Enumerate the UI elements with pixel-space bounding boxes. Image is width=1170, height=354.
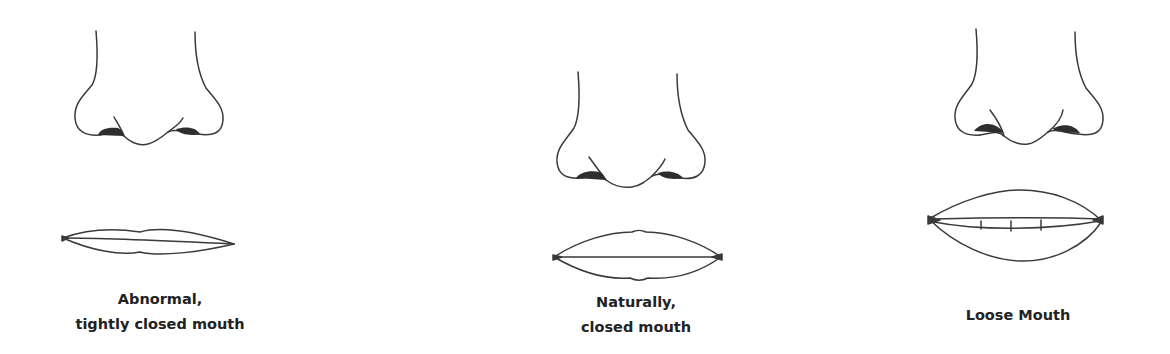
caption-natural-line-1: Naturally, [516, 290, 756, 315]
lips-loose-open-icon [928, 190, 1103, 261]
caption-loose-line-1: Loose Mouth [898, 303, 1138, 328]
caption-abnormal-line-1: Abnormal, [40, 287, 280, 312]
panel-natural-drawing [553, 72, 722, 280]
panel-abnormal-drawing [62, 31, 234, 254]
nose-icon [557, 72, 705, 187]
caption-abnormal-line-2: tightly closed mouth [40, 312, 280, 337]
nose-icon [75, 31, 223, 145]
nose-icon [955, 29, 1103, 144]
caption-abnormal: Abnormal, tightly closed mouth [40, 287, 280, 337]
caption-loose: Loose Mouth [898, 303, 1138, 328]
caption-natural-line-2: closed mouth [516, 315, 756, 340]
lips-naturally-closed-icon [553, 231, 722, 281]
panel-loose-drawing [928, 29, 1103, 261]
lips-tightly-closed-icon [62, 230, 234, 254]
caption-natural: Naturally, closed mouth [516, 290, 756, 340]
